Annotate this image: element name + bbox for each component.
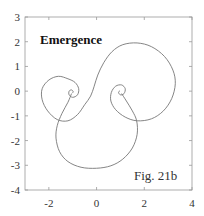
y-axis-tick-labels: 3210-1-2-3-4 (11, 11, 21, 196)
y-tick-label: -3 (11, 159, 21, 171)
y-tick-label: -2 (11, 135, 20, 147)
y-tick-label: -1 (11, 110, 20, 122)
y-tick-label: 3 (15, 11, 21, 23)
y-tick-label: 0 (15, 85, 21, 97)
y-tick-label: 2 (15, 36, 21, 48)
x-axis-tick-labels: -2024 (44, 197, 195, 209)
curve-line (56, 94, 138, 169)
x-tick-label: -2 (44, 197, 53, 209)
y-tick-label: 1 (15, 60, 21, 72)
curve-series (41, 43, 175, 168)
y-tick-label: -4 (11, 184, 21, 196)
x-tick-label: 0 (94, 197, 100, 209)
figure-caption: Fig. 21b (134, 168, 177, 183)
x-tick-label: 2 (142, 197, 148, 209)
curve-line (41, 43, 175, 121)
chart-title: Emergence (40, 32, 102, 47)
x-tick-label: 4 (189, 197, 195, 209)
chart: -2024 3210-1-2-3-4 Emergence Fig. 21b (0, 0, 204, 216)
